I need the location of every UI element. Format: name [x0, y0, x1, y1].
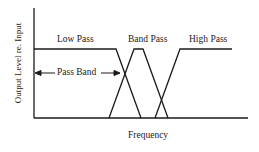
high-pass-curve — [155, 49, 232, 118]
filter-diagram: Low Pass Band Pass High Pass Pass Band F… — [0, 0, 259, 152]
x-axis-label: Frequency — [128, 131, 168, 141]
band-pass-curve-right — [143, 49, 188, 118]
y-axis-label: Output Level re. Input — [13, 23, 23, 103]
low-pass-label: Low Pass — [57, 35, 94, 45]
pass-band-label: Pass Band — [57, 68, 96, 78]
arrow-right-icon — [114, 71, 120, 76]
band-pass-label: Band Pass — [128, 35, 167, 45]
low-pass-curve — [34, 49, 141, 118]
high-pass-label: High Pass — [189, 35, 227, 45]
arrow-left-icon — [35, 71, 41, 76]
